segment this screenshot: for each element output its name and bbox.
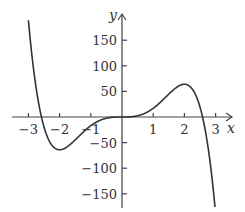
y-axis-label: y <box>108 7 118 23</box>
x-tick-label: −2 <box>50 122 69 137</box>
x-tick-label: 2 <box>180 122 188 137</box>
x-tick-label: 1 <box>149 122 157 137</box>
chart: −3−2−112315010050−50−100−150 x y <box>0 0 245 212</box>
axes <box>12 14 232 208</box>
y-tick-label: 50 <box>100 84 117 99</box>
x-tick-label: −3 <box>19 122 38 137</box>
y-tick-label: −50 <box>90 136 117 151</box>
x-tick-label: 3 <box>211 122 219 137</box>
y-tick-label: −100 <box>81 161 117 176</box>
y-tick-label: −150 <box>81 187 117 202</box>
y-tick-label: 100 <box>92 59 117 74</box>
y-tick-label: 150 <box>92 33 117 48</box>
x-axis-label: x <box>227 120 235 136</box>
